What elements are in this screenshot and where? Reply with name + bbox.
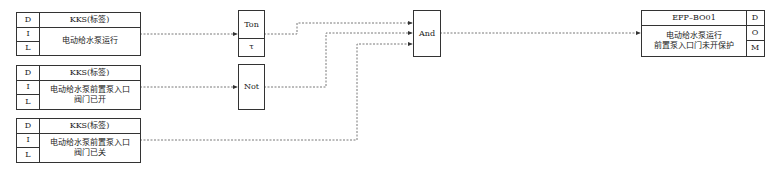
kks-tag: KKS(标签) xyxy=(39,66,140,80)
tau-param: τ xyxy=(239,38,264,56)
ton-label: Ton xyxy=(239,11,264,38)
i-label: I xyxy=(17,133,39,147)
and-label: And xyxy=(414,11,440,56)
output-kks-tag: EFP–BO01 xyxy=(642,11,746,25)
l-label: L xyxy=(17,147,39,162)
i-label: I xyxy=(17,80,39,94)
signal-description: 电动给水泵前置泵入口 阀门已开 xyxy=(39,80,140,109)
i-label: I xyxy=(17,27,39,41)
not-block: Not xyxy=(238,64,265,110)
m-label: M xyxy=(746,40,764,56)
input-block-3: D I L KKS(标签) 电动给水泵前置泵入口 阀门已关 xyxy=(16,118,141,163)
l-label: L xyxy=(17,41,39,55)
kks-tag: KKS(标签) xyxy=(39,119,140,133)
and-block: And xyxy=(413,10,441,57)
input-block-2: D I L KKS(标签) 电动给水泵前置泵入口 阀门已开 xyxy=(16,65,141,110)
input-block-1: D I L KKS(标签) 电动给水泵运行 xyxy=(16,12,141,56)
signal-description: 电动给水泵前置泵入口 阀门已关 xyxy=(39,133,140,162)
signal-description: 电动给水泵运行 xyxy=(39,27,140,55)
d-label: D xyxy=(746,11,764,25)
d-label: D xyxy=(17,13,39,27)
kks-tag: KKS(标签) xyxy=(39,13,140,27)
l-label: L xyxy=(17,94,39,109)
ton-timer-block: Ton τ xyxy=(238,10,265,57)
not-label: Not xyxy=(239,65,264,109)
d-label: D xyxy=(17,66,39,80)
output-block: EFP–BO01 电动给水泵运行 前置泵入口门未开保护 D O M xyxy=(641,10,765,57)
o-label: O xyxy=(746,25,764,40)
output-description: 电动给水泵运行 前置泵入口门未开保护 xyxy=(642,25,746,56)
d-label: D xyxy=(17,119,39,133)
